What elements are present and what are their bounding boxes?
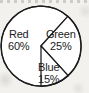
pie-chart-svg xyxy=(0,0,89,93)
pie-chart-figure: Red 60% Green 25% Blue 15% xyxy=(0,0,89,93)
